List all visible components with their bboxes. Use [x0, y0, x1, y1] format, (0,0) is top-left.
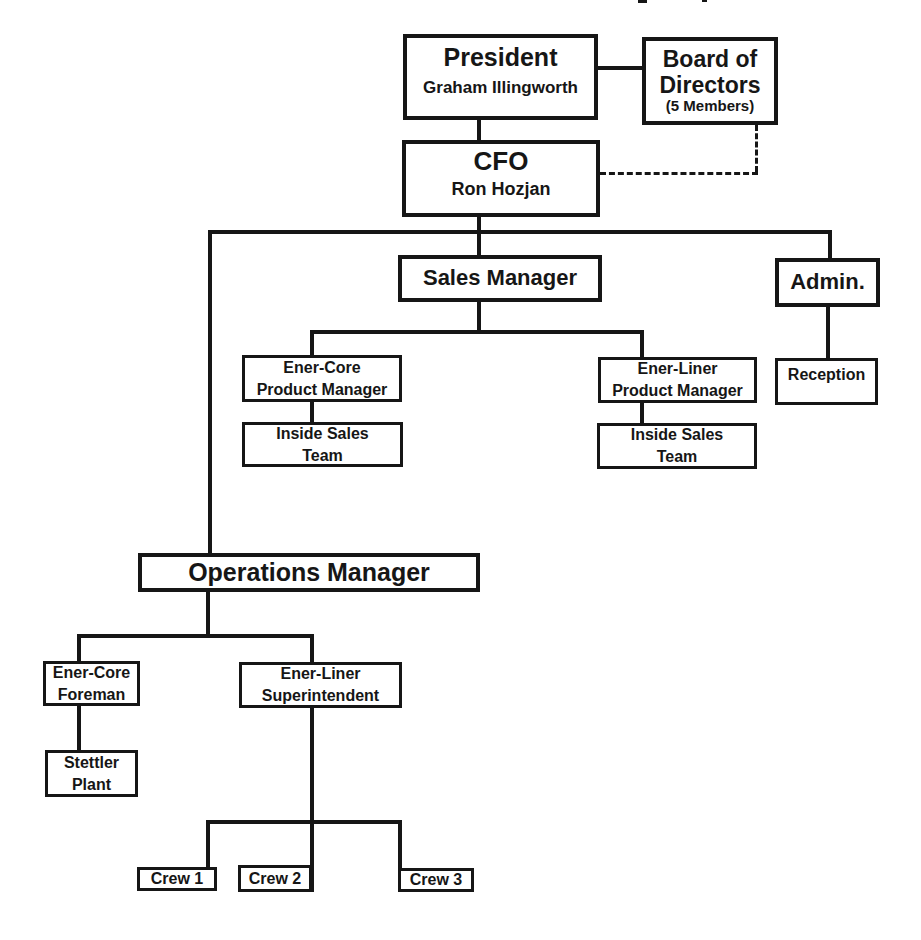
node-cfo: CFO Ron Hozjan: [402, 140, 600, 217]
edge-sales-children-horizontal: [310, 330, 644, 334]
node-crew-3: Crew 3: [398, 868, 474, 892]
node-title: Admin.: [790, 269, 865, 295]
edge-admin-reception: [826, 307, 830, 358]
node-title-line: Team: [657, 446, 698, 468]
node-crew-1: Crew 1: [137, 867, 217, 891]
edge-to-ener-liner-pm: [640, 330, 644, 357]
edge-operations-children-horizontal: [77, 634, 314, 638]
node-title: President: [444, 43, 558, 72]
node-subtitle: (5 Members): [666, 98, 754, 115]
edge-to-ener-core-pm: [310, 330, 314, 355]
edge-to-crew-1: [206, 820, 210, 867]
org-chart: President Graham Illingworth Board of Di…: [0, 0, 921, 940]
node-title-line: Superintendent: [262, 685, 379, 707]
node-title-line: Plant: [72, 774, 111, 796]
edge-cfo-board-dashed-vertical: [755, 125, 758, 172]
node-title: Operations Manager: [188, 558, 430, 587]
edge-sales-manager-out: [477, 302, 481, 332]
scan-artifact: [638, 0, 647, 3]
node-board-of-directors: Board of Directors (5 Members): [642, 37, 778, 125]
node-title: Crew 2: [249, 871, 301, 887]
edge-ener-liner-pm-inside-sales: [640, 403, 644, 423]
scan-artifact: [702, 0, 707, 2]
node-ener-liner-superintendent: Ener-Liner Superintendent: [239, 662, 402, 708]
edge-to-crew-3: [398, 820, 402, 868]
node-ener-core-product-manager: Ener-Core Product Manager: [242, 355, 402, 402]
node-title-line: Ener-Core: [283, 357, 360, 379]
node-stettler-plant: Stettler Plant: [45, 750, 138, 797]
node-title-line: Ener-Core: [53, 662, 130, 684]
node-title-line: Inside Sales: [631, 424, 724, 446]
node-person-name: Graham Illingworth: [423, 78, 578, 98]
node-title-line: Foreman: [58, 684, 126, 706]
node-title-line: Product Manager: [612, 380, 743, 402]
node-title-line: Product Manager: [257, 379, 388, 401]
edge-to-ener-liner-superintendent: [310, 634, 314, 662]
node-title-line: Ener-Liner: [280, 663, 360, 685]
node-title-line: Stettler: [64, 752, 119, 774]
node-title: Crew 1: [151, 871, 203, 887]
node-person-name: Ron Hozjan: [452, 179, 551, 201]
edge-trunk-sales-manager: [477, 230, 481, 255]
node-title: Reception: [788, 364, 865, 386]
node-reception: Reception: [775, 358, 878, 405]
edge-president-board: [598, 66, 642, 70]
node-crew-2: Crew 2: [238, 865, 312, 892]
node-ener-core-foreman: Ener-Core Foreman: [43, 661, 140, 706]
node-inside-sales-team-core: Inside Sales Team: [242, 422, 403, 467]
edge-crews-horizontal: [206, 820, 402, 824]
edge-trunk-admin: [828, 230, 832, 258]
node-operations-manager: Operations Manager: [138, 553, 480, 592]
node-title: Crew 3: [410, 872, 462, 888]
node-ener-liner-product-manager: Ener-Liner Product Manager: [598, 357, 757, 403]
node-president: President Graham Illingworth: [403, 34, 598, 120]
edge-cfo-board-dashed-horizontal: [600, 172, 758, 175]
node-sales-manager: Sales Manager: [398, 255, 602, 302]
node-inside-sales-team-liner: Inside Sales Team: [597, 423, 757, 469]
node-title-line: Directors: [660, 73, 761, 98]
node-title-line: Ener-Liner: [637, 358, 717, 380]
node-title-line: Inside Sales: [276, 423, 369, 445]
edge-foreman-stettler: [77, 706, 81, 750]
edge-operations-out: [206, 592, 210, 637]
edge-ener-core-pm-inside-sales: [310, 402, 314, 422]
node-title-line: Team: [302, 445, 343, 467]
node-title: CFO: [474, 147, 529, 176]
edge-main-horizontal: [208, 230, 832, 234]
edge-to-ener-core-foreman: [77, 634, 81, 661]
node-title: Sales Manager: [423, 265, 577, 291]
edge-trunk-operations: [208, 230, 212, 553]
node-admin: Admin.: [775, 258, 880, 307]
edge-president-cfo: [477, 120, 481, 140]
node-title-line: Board of: [663, 47, 758, 72]
